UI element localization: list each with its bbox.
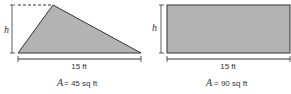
- triangle-area-variable: A: [56, 77, 64, 88]
- rectangle-height-dimension: [159, 5, 164, 53]
- rectangle-area-variable: A: [205, 77, 213, 88]
- rectangle-figure: h 15 ft A = 90 sq ft: [152, 5, 290, 88]
- rectangle-shape: [167, 5, 290, 53]
- rectangle-base-label: 15 ft: [220, 62, 236, 71]
- triangle-base-label: 15 ft: [71, 62, 87, 71]
- triangle-area-value: = 45 sq ft: [64, 79, 98, 88]
- triangle-figure: h 15 ft A = 45 sq ft: [4, 5, 141, 88]
- rectangle-height-label: h: [152, 22, 157, 33]
- triangle-shape: [18, 5, 141, 53]
- triangle-height-label: h: [4, 24, 9, 35]
- rectangle-area-value: = 90 sq ft: [214, 79, 248, 88]
- triangle-height-dimension: [10, 5, 15, 53]
- area-comparison-diagram: h 15 ft A = 45 sq ft h 15 ft A = 90 sq f…: [0, 0, 291, 94]
